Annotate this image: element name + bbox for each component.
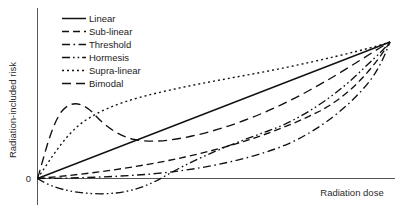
legend-label-supra-linear: Supra-linear [89,65,141,76]
legend-label-threshold: Threshold [89,39,131,50]
dose-response-chart: 0 Radiation-included risk Radiation dose… [0,0,407,218]
legend-label-bimodal: Bimodal [89,78,123,89]
legend-label-sub-linear: Sub-linear [89,26,132,37]
chart-container: 0 Radiation-included risk Radiation dose… [0,0,407,218]
chart-background [0,0,407,218]
legend-label-linear: Linear [89,13,115,24]
y-axis-label: Radiation-included risk [7,62,18,158]
y-axis-origin-tick: 0 [26,173,31,184]
legend-label-hormesis: Hormesis [89,52,129,63]
x-axis-label: Radiation dose [320,187,383,198]
